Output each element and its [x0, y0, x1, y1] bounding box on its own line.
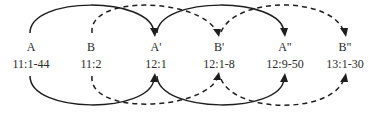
- arrowhead-icon: [280, 73, 288, 82]
- node-reference: 11:2: [61, 57, 121, 71]
- node-letter: A": [255, 40, 315, 54]
- chiastic-diagram: A 11:1-44 B 11:2 A' 12:1 B' 12:1-8 A" 12…: [0, 0, 376, 113]
- arrowhead-icon: [213, 29, 221, 37]
- arrowhead-icon: [280, 28, 288, 37]
- arrowhead-icon: [340, 28, 348, 37]
- node-a-prime: A' 12:1: [126, 40, 186, 71]
- node-b-double-prime: B" 13:1-30: [315, 40, 375, 71]
- arc-a-prime-to-a-double-prime-bottom: [157, 76, 284, 105]
- node-a-double-prime: A" 12:9-50: [255, 40, 315, 71]
- arrowhead-icon: [340, 73, 348, 82]
- node-reference: 12:1-8: [189, 57, 249, 71]
- node-letter: B': [189, 40, 249, 54]
- node-reference: 12:9-50: [255, 57, 315, 71]
- arc-a-prime-to-a-double-prime-top: [157, 5, 284, 33]
- arrowhead-icon: [213, 72, 221, 80]
- node-letter: B: [61, 40, 121, 54]
- node-reference: 12:1: [126, 57, 186, 71]
- node-a: A 11:1-44: [1, 40, 61, 71]
- node-b: B 11:2: [61, 40, 121, 71]
- node-letter: A': [126, 40, 186, 54]
- node-letter: A: [1, 40, 61, 54]
- node-reference: 13:1-30: [315, 57, 375, 71]
- node-reference: 11:1-44: [1, 57, 61, 71]
- node-letter: B": [315, 40, 375, 54]
- node-b-prime: B' 12:1-8: [189, 40, 249, 71]
